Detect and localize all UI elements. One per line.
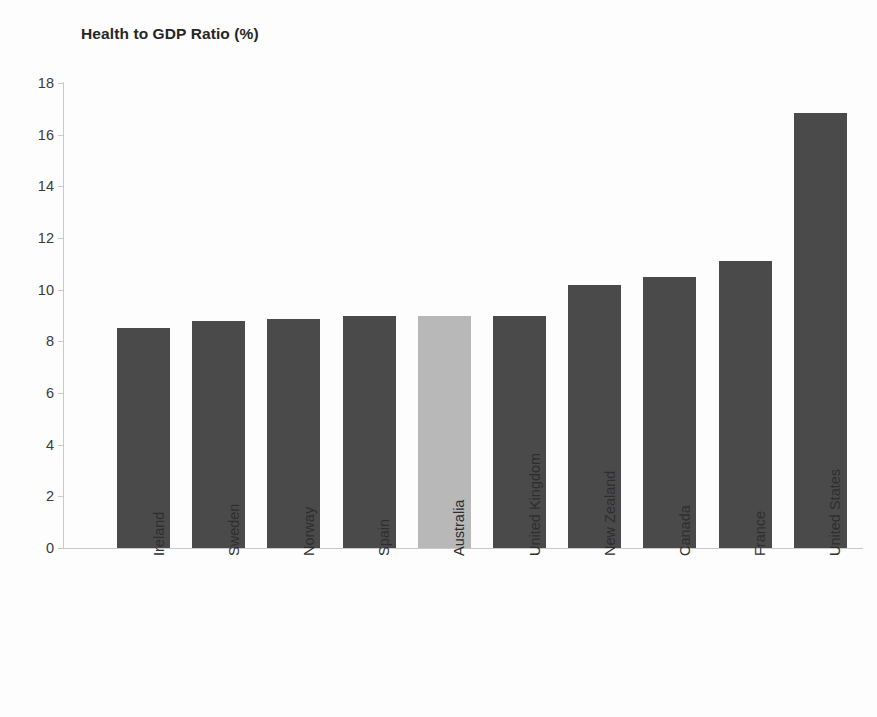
y-axis-tick-label: 0 (46, 540, 54, 556)
y-axis-tick-mark (58, 290, 63, 291)
x-axis-label-canada: Canada (677, 505, 693, 556)
chart-page: Health to GDP Ratio (%) 024681012141618 … (0, 0, 877, 717)
y-axis-tick-label: 14 (38, 178, 54, 194)
x-axis-label-spain: Spain (376, 519, 392, 556)
bar-spain[interactable] (343, 316, 396, 549)
x-axis-label-france: France (752, 511, 768, 556)
y-axis-tick-mark (58, 341, 63, 342)
y-axis-tick-mark (58, 393, 63, 394)
y-axis-tick-label: 16 (38, 127, 54, 143)
y-axis-tick-mark (58, 135, 63, 136)
x-axis-label-new-zealand: New Zealand (602, 471, 618, 556)
x-axis-label-australia: Australia (451, 500, 467, 556)
y-axis-tick-mark (58, 496, 63, 497)
bar-france[interactable] (719, 261, 772, 548)
x-axis-label-united-states: United States (827, 469, 843, 556)
y-axis-tick-label: 12 (38, 230, 54, 246)
x-axis-label-norway: Norway (301, 507, 317, 556)
y-axis-tick-label: 18 (38, 75, 54, 91)
y-axis-tick-label: 8 (46, 333, 54, 349)
y-axis-tick-mark (58, 186, 63, 187)
page-title: Health to GDP Ratio (%) (81, 25, 259, 43)
y-axis-tick-mark (58, 445, 63, 446)
y-axis-tick-label: 2 (46, 488, 54, 504)
plot-area: 024681012141618 (63, 83, 863, 548)
x-axis-label-sweden: Sweden (226, 504, 242, 556)
x-axis-label-united-kingdom: United Kingdom (527, 453, 543, 556)
y-axis-tick-label: 10 (38, 282, 54, 298)
y-axis-tick-mark (58, 548, 63, 549)
y-axis-tick-label: 6 (46, 385, 54, 401)
y-axis-tick-mark (58, 83, 63, 84)
y-axis-tick-label: 4 (46, 437, 54, 453)
y-axis-tick-mark (58, 238, 63, 239)
x-axis-label-ireland: Ireland (151, 512, 167, 556)
